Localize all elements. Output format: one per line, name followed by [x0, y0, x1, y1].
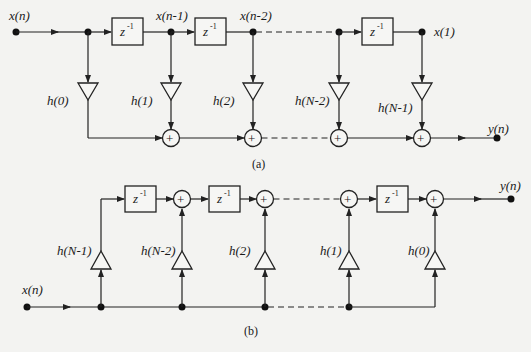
multiplier: [412, 83, 432, 100]
multiplier: [91, 251, 111, 269]
output-label: y(n): [486, 121, 509, 136]
svg-text:-1: -1: [140, 189, 147, 198]
panel-caption: (a): [252, 157, 265, 171]
multiplier: [339, 251, 359, 269]
svg-text:+: +: [334, 131, 341, 146]
multiplier: [329, 83, 349, 100]
input-label: x(n): [8, 8, 30, 23]
coef-label: h(0): [47, 93, 69, 108]
multiplier: [255, 251, 275, 269]
output-label: y(n): [498, 178, 521, 193]
coef-label: h(N-1): [378, 100, 413, 115]
svg-text:-1: -1: [210, 22, 217, 31]
coef-label: h(1): [131, 93, 153, 108]
delay-label: z: [132, 191, 138, 206]
panel-a: x(n) z -1 x(n-1) z -1 x(n-2) z -1 x(1): [8, 8, 509, 171]
tap-label: x(n-1): [155, 8, 188, 23]
svg-text:+: +: [260, 192, 267, 207]
panel-caption: (b): [244, 324, 258, 338]
tap-label: x(1): [433, 24, 455, 39]
svg-text:z: z: [369, 24, 375, 39]
svg-text:-1: -1: [127, 22, 134, 31]
svg-text:+: +: [417, 131, 424, 146]
multiplier: [243, 83, 263, 100]
svg-text:+: +: [248, 131, 255, 146]
input-label: x(n): [21, 282, 43, 297]
svg-text:+: +: [177, 192, 184, 207]
svg-text:+: +: [166, 131, 173, 146]
svg-text:z: z: [384, 191, 390, 206]
svg-text:z: z: [216, 191, 222, 206]
svg-text:+: +: [344, 192, 351, 207]
coef-label: h(N-1): [57, 243, 92, 258]
svg-text:-1: -1: [392, 189, 399, 198]
multiplier: [78, 83, 98, 100]
svg-text:-1: -1: [224, 189, 231, 198]
coef-label: h(1): [320, 243, 342, 258]
delay-label: z: [119, 24, 125, 39]
coef-label: h(N-2): [295, 93, 330, 108]
output-node: [508, 196, 515, 203]
svg-text:-1: -1: [377, 22, 384, 31]
fir-filter-diagram: x(n) z -1 x(n-1) z -1 x(n-2) z -1 x(1): [0, 0, 531, 352]
panel-b: x(n) h(N-1) h(N-2) h(2) h(1) h(0): [21, 178, 521, 338]
tap-label: x(n-2): [239, 8, 272, 23]
multiplier: [161, 83, 181, 100]
coef-label: h(0): [408, 243, 430, 258]
svg-text:z: z: [202, 24, 208, 39]
coef-label: h(2): [229, 243, 251, 258]
coef-label: h(2): [213, 93, 235, 108]
coef-label: h(N-2): [141, 243, 176, 258]
svg-text:+: +: [430, 192, 437, 207]
